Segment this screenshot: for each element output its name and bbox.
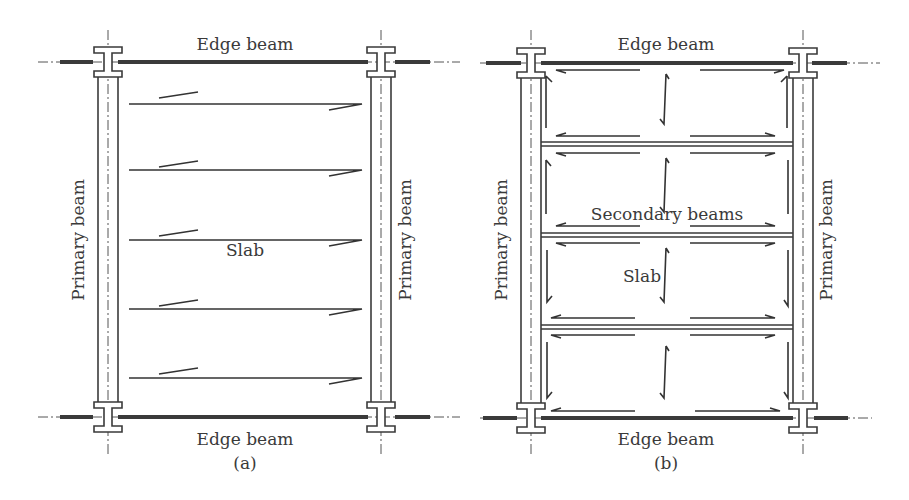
secondary-beams xyxy=(541,142,793,329)
secondary-beam xyxy=(541,233,793,237)
floor-framing-diagram: Edge beam Edge beam Slab Primary beam Pr… xyxy=(0,0,909,500)
slab-label: Slab xyxy=(623,266,661,286)
bottom-edge-beam-label: Edge beam xyxy=(197,429,294,449)
right-primary-beam-label: Primary beam xyxy=(395,179,415,301)
slab-label: Slab xyxy=(226,240,264,260)
bottom-edge-beam-label: Edge beam xyxy=(618,429,715,449)
secondary-beam xyxy=(541,142,793,146)
panel-b: Edge beam Edge beam Secondary beams Slab… xyxy=(480,30,880,473)
panel-caption: (b) xyxy=(654,453,678,473)
span-arrows xyxy=(546,74,788,398)
right-primary-beam-label: Primary beam xyxy=(816,179,836,301)
beam-load-arrows xyxy=(551,70,784,411)
span-arrows xyxy=(129,92,362,384)
secondary-beam xyxy=(541,325,793,329)
top-edge-beam-label: Edge beam xyxy=(618,34,715,54)
left-primary-beam-label: Primary beam xyxy=(491,179,511,301)
left-primary-beam-label: Primary beam xyxy=(68,179,88,301)
panel-a: Edge beam Edge beam Slab Primary beam Pr… xyxy=(38,30,460,473)
secondary-beams-label: Secondary beams xyxy=(591,204,744,224)
top-edge-beam-label: Edge beam xyxy=(197,34,294,54)
panel-caption: (a) xyxy=(233,453,256,473)
